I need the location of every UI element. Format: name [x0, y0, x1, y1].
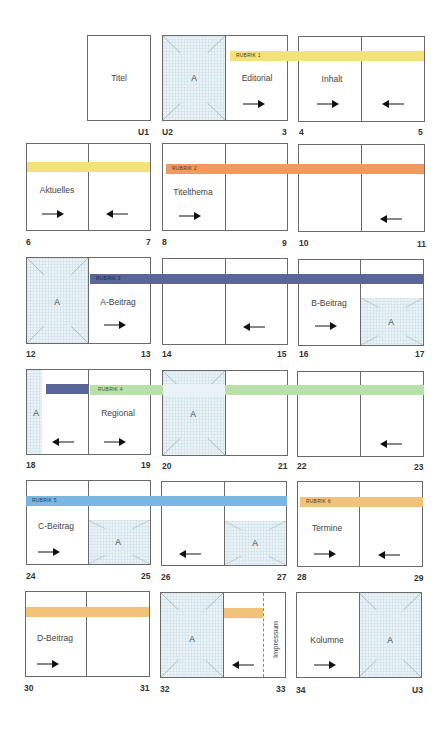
rubrik-4-bar[interactable]: RUBRIK 4 — [90, 385, 424, 395]
page-number: 33 — [276, 684, 285, 694]
page-number: 17 — [415, 349, 424, 359]
ad-label: A — [387, 635, 393, 645]
page-number: 32 — [160, 684, 169, 694]
arrow-left-icon — [52, 438, 74, 446]
arrow-left-icon — [106, 210, 128, 218]
arrow-right-icon — [104, 438, 126, 446]
spread-divider — [360, 259, 361, 346]
page-number: 4 — [299, 127, 304, 137]
arrow-right-icon — [42, 210, 64, 218]
arrow-left-icon — [380, 440, 402, 448]
ad-label: A — [388, 317, 394, 327]
spread-divider — [359, 592, 360, 678]
page-number: 22 — [297, 461, 306, 471]
impressum-column-guide — [263, 593, 264, 677]
arrow-right-icon — [315, 322, 337, 330]
rubrik-3-bar[interactable] — [46, 384, 88, 394]
page-label-impressum: Impressum — [271, 621, 280, 658]
page-number: 18 — [26, 460, 35, 470]
spread-divider — [225, 35, 226, 121]
ad-label: A — [115, 537, 121, 547]
rubrik-6-bar[interactable]: RUBRIK 6 — [300, 497, 423, 507]
spread-divider — [361, 144, 362, 232]
page-label-termine: Termine — [312, 523, 342, 533]
page-label-inhalt: Inhalt — [322, 74, 343, 84]
page-number: 28 — [297, 572, 306, 582]
page-number: 3 — [282, 127, 287, 137]
page-number: 15 — [277, 349, 286, 359]
arrow-left-icon — [382, 100, 404, 108]
arrow-right-icon — [314, 661, 336, 669]
spread-divider — [88, 480, 89, 565]
spread-divider — [225, 258, 226, 345]
spread-divider — [88, 257, 89, 344]
page-number: 12 — [26, 349, 35, 359]
arrow-left-icon — [179, 550, 201, 558]
rubrik-5-bar[interactable]: RUBRIK 5 — [26, 496, 287, 506]
arrow-left-icon — [380, 215, 402, 223]
spread-divider — [361, 36, 362, 122]
page-number: 11 — [417, 239, 426, 249]
rubrik-1-bar[interactable]: RUBRIK 1 — [230, 51, 424, 61]
arrow-right-icon — [243, 100, 265, 108]
rubrik-1-bar[interactable] — [27, 162, 150, 172]
page-label-regional: Regional — [101, 408, 135, 418]
page-number: 25 — [141, 571, 150, 581]
page-label-titel: Titel — [111, 73, 127, 83]
ad-label: A — [33, 408, 39, 418]
page-number: 20 — [162, 461, 171, 471]
page-label-titelthema: Titelthema — [173, 187, 212, 197]
arrow-right-icon — [179, 212, 201, 220]
page-number: 29 — [414, 573, 423, 583]
page-number: 19 — [141, 460, 150, 470]
rubrik-3-bar[interactable]: RUBRIK 3 — [90, 274, 424, 284]
page-number: 31 — [140, 683, 149, 693]
spread-divider — [223, 592, 224, 678]
spread-divider — [360, 371, 361, 457]
spread-divider — [88, 143, 89, 231]
page-label-d-beitrag: D-Beitrag — [37, 633, 73, 643]
page-number: 23 — [414, 462, 423, 472]
ad-label: A — [190, 409, 196, 419]
page-label-kolumne: Kolumne — [310, 635, 344, 645]
arrow-right-icon — [104, 321, 126, 329]
arrow-right-icon — [314, 550, 336, 558]
page-number: 8 — [162, 237, 167, 247]
ad-label: A — [189, 634, 195, 644]
page-number: U1 — [138, 127, 149, 137]
page-number: 13 — [141, 349, 150, 359]
spread-divider — [86, 591, 87, 677]
arrow-left-icon — [243, 323, 265, 331]
page-number: 26 — [161, 572, 170, 582]
page-number: 27 — [277, 572, 286, 582]
page-number: 5 — [418, 127, 423, 137]
arrow-right-icon — [38, 548, 60, 556]
page-number: 6 — [26, 237, 31, 247]
arrow-left-icon — [378, 551, 400, 559]
spread-divider — [225, 370, 226, 456]
page-number: 24 — [26, 571, 35, 581]
page-number: 30 — [24, 683, 33, 693]
page-label-b-beitrag: B-Beitrag — [311, 298, 346, 308]
rubrik-6-bar[interactable] — [26, 607, 149, 617]
spread-divider — [225, 143, 226, 231]
page-number: 9 — [282, 238, 287, 248]
ad-label: A — [54, 297, 60, 307]
page-label-editorial: Editorial — [242, 73, 273, 83]
page-number: U3 — [412, 685, 423, 695]
page-number: 14 — [162, 349, 171, 359]
page-number: 10 — [299, 238, 308, 248]
ad-label: A — [252, 538, 258, 548]
page-number: U2 — [162, 127, 173, 137]
arrow-left-icon — [232, 661, 254, 669]
arrow-right-icon — [317, 100, 339, 108]
arrow-right-icon — [37, 660, 59, 668]
page-number: 16 — [299, 349, 308, 359]
rubrik-2-bar[interactable]: RUBRIK 2 — [166, 164, 424, 174]
rubrik-6-bar[interactable] — [224, 608, 263, 618]
page-number: 7 — [146, 237, 151, 247]
page-number: 34 — [296, 685, 305, 695]
page-number: 21 — [278, 461, 287, 471]
spread-divider — [88, 369, 89, 455]
page-label-a-beitrag: A-Beitrag — [100, 297, 135, 307]
